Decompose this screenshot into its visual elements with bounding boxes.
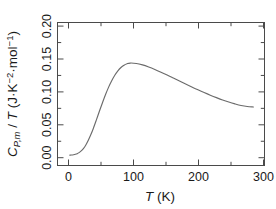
x-tick-label: 300 [253, 170, 274, 184]
x-tick-label: 200 [188, 170, 209, 184]
y-axis-title-k-sup: −2 [4, 73, 15, 84]
y-tick-label: 0.20 [40, 14, 54, 38]
y-axis-title-c-sub: P,m [11, 131, 22, 147]
y-tick-label: 0.10 [40, 80, 54, 104]
x-tick-label: 100 [123, 170, 144, 184]
y-axis-title-mol-sup: −1 [4, 36, 15, 47]
y-tick-label: 0.00 [40, 145, 54, 169]
y-axis-title-open: (J·K [5, 84, 20, 113]
y-tick-label: 0.15 [40, 47, 54, 71]
data-series-line [70, 63, 254, 155]
y-tick-label: 0.05 [40, 113, 54, 137]
x-axis-title-unit: (K) [153, 189, 175, 204]
x-major-ticks [69, 23, 264, 166]
y-major-ticks [58, 26, 265, 158]
x-tick-label: 0 [65, 170, 72, 184]
y-axis-title: CP,m / T (J·K−2·mol−1) [4, 31, 22, 157]
chart-plot: 0 100 200 300 0.00 0.05 0.10 0.15 0.20 C… [0, 0, 276, 209]
plot-frame [58, 23, 265, 166]
x-tick-labels: 0 100 200 300 [65, 170, 274, 184]
y-axis-title-mid: ·mol [5, 46, 20, 72]
y-axis-title-slash: / [5, 120, 20, 131]
y-minor-ticks [58, 43, 265, 142]
y-axis-title-c: C [5, 147, 20, 157]
x-axis-title: T (K) [145, 189, 175, 204]
x-minor-ticks [101, 23, 231, 166]
y-axis-title-close: ) [5, 31, 20, 36]
y-tick-labels: 0.00 0.05 0.10 0.15 0.20 [40, 14, 54, 170]
figure-panel: 0 100 200 300 0.00 0.05 0.10 0.15 0.20 C… [0, 0, 276, 209]
